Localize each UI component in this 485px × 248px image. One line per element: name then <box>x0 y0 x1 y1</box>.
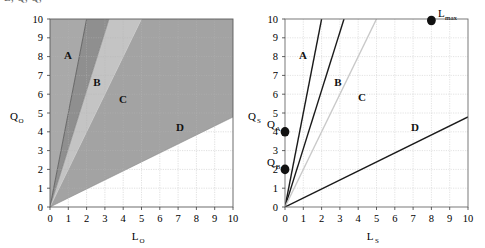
right-ytick: 7 <box>273 70 278 81</box>
left-ytick-labels: 0 1 2 3 4 5 6 7 8 9 10 <box>33 14 44 213</box>
chart-left-panel: 0 1 2 3 4 5 6 7 8 9 10 0 1 2 3 4 5 6 7 8… <box>10 14 238 246</box>
right-yaxis-title: Q S <box>248 110 261 125</box>
left-ytick: 10 <box>33 14 44 25</box>
point-Q-A-sub: A <box>275 125 280 133</box>
left-xtick: 6 <box>157 213 162 224</box>
region-label-A: A <box>299 49 307 61</box>
right-xtick: 1 <box>301 213 306 224</box>
right-tickmarks <box>282 19 468 210</box>
region-label-D: D <box>411 121 419 133</box>
left-xtick: 7 <box>175 213 180 224</box>
left-ytick: 4 <box>38 126 44 137</box>
right-ytick: 0 <box>273 202 278 213</box>
left-xtick-labels: 0 1 2 3 4 5 6 7 8 9 10 <box>47 213 238 224</box>
left-xaxis-title-sub: O <box>139 237 144 245</box>
left-ytick: 9 <box>38 32 43 43</box>
point-L-max[interactable]: L max <box>427 7 458 25</box>
right-xtick: 7 <box>410 213 415 224</box>
left-ytick: 8 <box>38 51 43 62</box>
left-xtick: 5 <box>139 213 144 224</box>
point-Q-B-sub: B <box>276 163 281 171</box>
left-ytick: 7 <box>38 70 43 81</box>
region-label-D: D <box>176 121 184 133</box>
region-label-A: A <box>64 49 72 61</box>
right-ytick: 9 <box>273 32 278 43</box>
left-xtick: 4 <box>121 213 127 224</box>
right-xaxis-title-sub: S <box>375 237 379 245</box>
right-xtick: 2 <box>319 213 324 224</box>
right-ytick: 8 <box>273 51 278 62</box>
right-xtick: 9 <box>447 213 452 224</box>
point-Q-A[interactable]: Q A <box>267 118 289 137</box>
left-xaxis-title: L O <box>132 230 145 245</box>
right-xtick: 6 <box>392 213 397 224</box>
left-ytick: 3 <box>38 145 43 156</box>
right-xtick: 4 <box>356 213 362 224</box>
region-label-C: C <box>358 91 366 103</box>
left-ytick: 1 <box>38 183 43 194</box>
left-ytick: 2 <box>38 164 43 175</box>
right-yaxis-title-sub: S <box>257 117 261 125</box>
left-xtick: 3 <box>102 213 107 224</box>
chart-svg: 0 1 2 3 4 5 6 7 8 9 10 0 1 2 3 4 5 6 7 8… <box>0 0 485 248</box>
right-ytick-labels: 0 1 2 3 4 5 6 7 8 9 10 <box>268 14 279 213</box>
right-xaxis-title: L S <box>367 230 379 245</box>
right-xtick-labels: 0 1 2 3 4 5 6 7 8 9 10 <box>282 213 473 224</box>
left-yaxis-title-text: Q <box>10 110 18 122</box>
left-ytick: 6 <box>38 89 43 100</box>
left-ytick: 5 <box>38 108 43 119</box>
line-boundary-2 <box>285 19 344 207</box>
right-xtick: 8 <box>429 213 434 224</box>
left-ytick: 0 <box>38 202 43 213</box>
left-xtick: 1 <box>66 213 71 224</box>
right-ytick: 1 <box>273 183 278 194</box>
point-Q-B-label: Q <box>267 156 275 168</box>
right-xtick: 3 <box>337 213 342 224</box>
right-ytick: 6 <box>273 89 278 100</box>
right-ytick: 10 <box>268 14 279 25</box>
region-label-C: C <box>119 93 127 105</box>
left-xtick: 8 <box>194 213 199 224</box>
right-xaxis-title-text: L <box>367 230 374 242</box>
point-Q-B[interactable]: Q B <box>267 156 289 174</box>
point-L-max-label: L <box>438 7 445 19</box>
point-L-max-sub: max <box>445 14 458 22</box>
left-xtick: 10 <box>228 213 239 224</box>
left-xaxis-title-text: L <box>132 230 139 242</box>
right-ytick: 3 <box>273 145 278 156</box>
left-yaxis-title-sub: O <box>18 117 23 125</box>
left-xtick: 0 <box>47 213 52 224</box>
right-ytick: 5 <box>273 108 278 119</box>
region-label-B: B <box>93 76 101 88</box>
left-yaxis-title: Q O <box>10 110 24 125</box>
right-gridlines <box>285 19 468 207</box>
left-xtick: 2 <box>84 213 89 224</box>
figure-two-panel-chart: 0 1 2 3 4 5 6 7 8 9 10 0 1 2 3 4 5 6 7 8… <box>0 0 485 248</box>
region-label-B: B <box>334 76 342 88</box>
right-xtick: 10 <box>463 213 474 224</box>
right-xtick: 5 <box>374 213 379 224</box>
chart-right-panel: 0 1 2 3 4 5 6 7 8 9 10 0 1 2 3 4 5 6 7 8… <box>248 7 473 245</box>
right-xtick: 0 <box>282 213 287 224</box>
left-xtick: 9 <box>212 213 217 224</box>
point-Q-A-label: Q <box>267 118 275 130</box>
right-yaxis-title-text: Q <box>248 110 256 122</box>
